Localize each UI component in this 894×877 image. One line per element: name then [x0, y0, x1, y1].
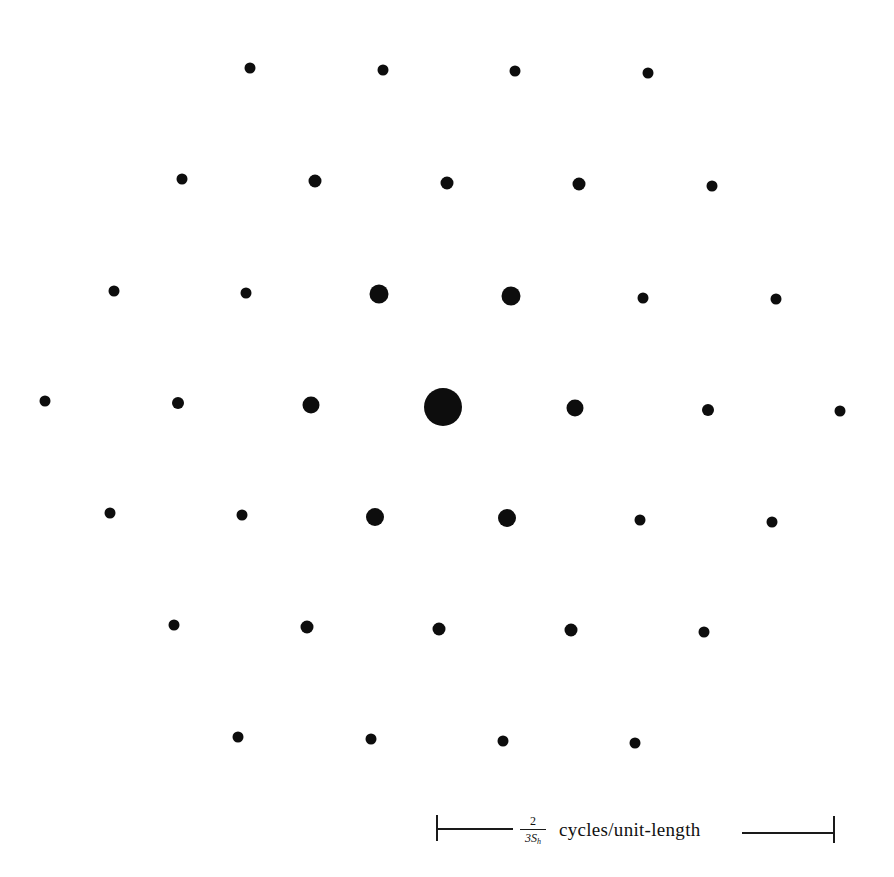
scale-bar-fraction: 2 3Sh — [519, 815, 547, 848]
lattice-dot — [172, 397, 184, 409]
lattice-dot — [567, 400, 584, 417]
lattice-dot — [702, 404, 714, 416]
lattice-dot — [245, 63, 256, 74]
lattice-dot — [699, 627, 710, 638]
lattice-dot — [498, 509, 516, 527]
lattice-dot — [441, 177, 454, 190]
fraction-denominator: 3Sh — [519, 832, 547, 848]
lattice-dot — [241, 288, 252, 299]
lattice-dot — [565, 624, 578, 637]
fraction-bar — [520, 829, 546, 830]
lattice-dot — [643, 68, 654, 79]
lattice-dot — [835, 406, 846, 417]
fraction-denominator-subscript: h — [537, 837, 541, 846]
lattice-dot — [378, 65, 389, 76]
lattice-dot — [573, 178, 586, 191]
lattice-dot — [510, 66, 521, 77]
lattice-dot — [767, 517, 778, 528]
lattice-dot — [309, 175, 322, 188]
fraction-numerator: 2 — [519, 815, 547, 828]
lattice-dot — [771, 294, 782, 305]
lattice-dot — [303, 397, 320, 414]
scale-bar-unit-label: cycles/unit-length — [559, 819, 701, 841]
lattice-dot — [433, 623, 446, 636]
lattice-dot — [638, 293, 649, 304]
scale-bar-left-line — [437, 828, 513, 830]
lattice-dot — [105, 508, 116, 519]
lattice-dot — [498, 736, 509, 747]
lattice-dot — [109, 286, 120, 297]
lattice-dot — [301, 621, 314, 634]
lattice-dot — [502, 287, 521, 306]
lattice-dot — [237, 510, 248, 521]
scale-bar-right-tick — [833, 816, 835, 843]
fraction-denominator-base: 3S — [525, 831, 537, 845]
lattice-dot-origin — [424, 388, 462, 426]
scale-bar-right-line — [742, 832, 834, 834]
lattice-dot — [707, 181, 718, 192]
lattice-dot — [40, 396, 51, 407]
lattice-dot — [630, 738, 641, 749]
lattice-dot — [177, 174, 188, 185]
lattice-dot — [635, 515, 646, 526]
hexagonal-lattice-figure: 2 3Sh cycles/unit-length — [0, 0, 894, 877]
lattice-dot — [366, 734, 377, 745]
lattice-dot — [169, 620, 180, 631]
lattice-dot — [370, 285, 389, 304]
lattice-dot — [366, 508, 384, 526]
lattice-dot — [233, 732, 244, 743]
